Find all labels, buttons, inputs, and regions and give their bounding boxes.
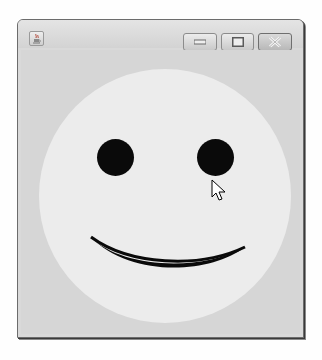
minimize-icon: [194, 39, 206, 45]
smile-mouth: [89, 235, 249, 275]
maximize-icon: [232, 37, 244, 47]
close-button[interactable]: [258, 33, 292, 51]
java-cup-icon[interactable]: [29, 31, 44, 46]
left-eye: [97, 139, 134, 176]
mouse-cursor-icon: [211, 179, 227, 203]
smiley-face: [39, 69, 291, 323]
title-bar[interactable]: [18, 20, 303, 48]
minimize-button[interactable]: [183, 33, 217, 51]
maximize-button[interactable]: [221, 33, 254, 51]
app-window: [17, 19, 304, 338]
right-eye: [197, 139, 234, 176]
drawing-canvas: [21, 50, 300, 334]
close-icon: [268, 37, 282, 48]
